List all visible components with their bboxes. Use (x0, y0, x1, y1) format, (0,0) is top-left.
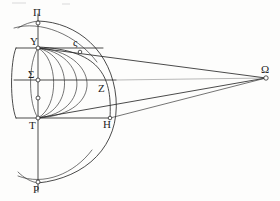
sphere-limb-bottom-left (18, 172, 38, 183)
node-eye-point (264, 76, 268, 80)
meridian-left-limb (12, 48, 17, 118)
node-lower-tropic (36, 116, 40, 120)
label-pole-bottom: P (33, 184, 39, 195)
sight-line-mid (110, 78, 266, 118)
label-arc-point-lower: H (103, 119, 111, 130)
figure-canvas: Π Y Σ ς Z T H P Ω (0, 0, 280, 201)
cap-arc-bottom (18, 150, 92, 180)
meridian-arc-1 (31, 48, 39, 118)
meridian-arc-2 (38, 48, 54, 118)
meridian-arc-5 (38, 48, 87, 118)
scan-artifact-left (12, 2, 26, 4)
label-equator: Σ (28, 69, 35, 80)
sight-line-upper (38, 48, 266, 78)
label-arc-point-mid: Z (98, 83, 105, 94)
node-equator (36, 78, 40, 82)
scan-artifact-right (62, 3, 70, 5)
node-pole-top (36, 21, 40, 25)
label-lower-tropic: T (29, 120, 36, 131)
meridian-arc-3 (38, 48, 65, 118)
geometric-diagram (0, 0, 280, 201)
equator-sight-line (116, 78, 266, 80)
sight-line-lower (38, 78, 266, 118)
label-upper-tropic: Y (30, 36, 38, 47)
label-eye-point: Ω (261, 64, 269, 75)
label-pole-top: Π (33, 7, 41, 18)
node-axis-mid (36, 96, 40, 100)
sphere-limb-top-left (18, 21, 38, 28)
cap-arc-top (14, 26, 97, 62)
label-arc-point-upper: ς (73, 37, 78, 48)
node-arc-point-upper (78, 50, 82, 54)
